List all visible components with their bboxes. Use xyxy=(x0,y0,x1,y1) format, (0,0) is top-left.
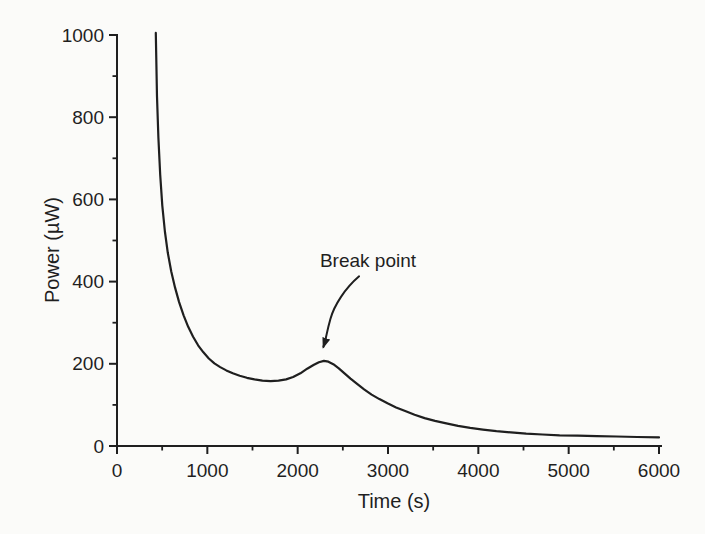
power-curve xyxy=(156,33,659,438)
y-axis-tick-label: 800 xyxy=(72,107,104,128)
x-axis-tick-label: 4000 xyxy=(457,460,499,481)
y-axis-tick-label: 1000 xyxy=(62,25,104,46)
break-point-annotation-label: Break point xyxy=(320,250,417,271)
x-axis-tick-label: 0 xyxy=(112,460,123,481)
x-axis-tick-label: 5000 xyxy=(548,460,590,481)
y-axis-tick-label: 400 xyxy=(72,271,104,292)
y-axis-title: Power (µW) xyxy=(41,197,63,303)
x-axis-tick-label: 6000 xyxy=(638,460,680,481)
x-axis-tick-label: 2000 xyxy=(277,460,319,481)
annotation-arrow xyxy=(323,276,359,347)
y-axis-tick-label: 0 xyxy=(93,436,104,457)
x-axis-tick-label: 3000 xyxy=(367,460,409,481)
power-vs-time-figure: 0100020003000400050006000020040060080010… xyxy=(0,0,705,534)
y-axis-tick-label: 200 xyxy=(72,353,104,374)
x-axis-title: Time (s) xyxy=(358,490,431,512)
chart-canvas: 0100020003000400050006000020040060080010… xyxy=(0,0,705,534)
axes xyxy=(117,35,661,446)
x-axis-tick-label: 1000 xyxy=(186,460,228,481)
y-axis-tick-label: 600 xyxy=(72,189,104,210)
